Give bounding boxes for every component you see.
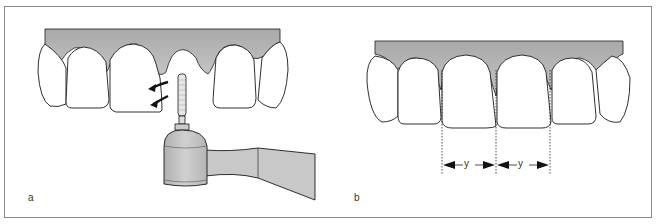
handpiece-neck [205,148,315,200]
dimension-label-y2: y [518,158,523,169]
tooth-a4 [213,45,256,108]
dimension-arrows-icon [443,161,549,169]
tooth-b2 [398,58,441,124]
panel-label-a: a [28,192,34,203]
panel-b [367,41,630,174]
handpiece-head [164,130,207,186]
tooth-b5 [552,58,596,124]
tooth-b3 [442,55,496,128]
dental-diagram [0,0,660,224]
tooth-b1 [367,56,398,122]
tooth-b6 [596,56,630,122]
panel-a [38,29,315,200]
dimension-label-y1: y [464,158,469,169]
tooth-b4 [497,55,551,128]
panel-label-b: b [354,192,360,203]
